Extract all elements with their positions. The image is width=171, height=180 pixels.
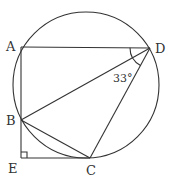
circumcircle <box>13 12 159 158</box>
label-a: A <box>5 39 16 54</box>
segment-ad <box>21 47 150 48</box>
label-c: C <box>86 163 96 178</box>
geometry-diagram: A D B E C 33° <box>0 0 171 180</box>
angle-label-33: 33° <box>113 72 133 85</box>
right-angle-marker <box>21 152 27 158</box>
label-d: D <box>155 41 165 56</box>
label-e: E <box>8 161 18 176</box>
label-b: B <box>6 113 16 128</box>
segment-bc <box>21 120 90 158</box>
